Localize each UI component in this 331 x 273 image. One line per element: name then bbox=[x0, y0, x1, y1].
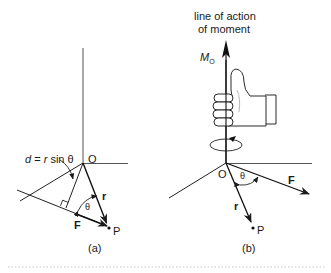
moment-subscript: O bbox=[209, 58, 214, 65]
point-label-a: P bbox=[113, 226, 120, 237]
point-p-b bbox=[251, 226, 254, 229]
axis-title-line2: of moment bbox=[198, 24, 250, 35]
moment-symbol: M bbox=[200, 51, 209, 63]
angle-label-b: θ bbox=[240, 172, 245, 181]
origin-label-b: O bbox=[218, 169, 227, 180]
moment-diagram bbox=[0, 0, 331, 273]
moment-label: MO bbox=[200, 52, 215, 65]
position-vector-label-b: r bbox=[234, 201, 238, 212]
point-label-b: P bbox=[257, 225, 264, 236]
force-label-a: F bbox=[74, 220, 81, 231]
position-vector-b bbox=[226, 163, 251, 222]
panel-b bbox=[169, 40, 312, 230]
sin-text: sin bbox=[47, 153, 67, 165]
distance-label: d = r sin θ bbox=[25, 154, 74, 165]
axis-title-line1: line of action bbox=[194, 11, 256, 22]
angle-label-a: θ bbox=[85, 203, 90, 212]
rotation-arrowhead bbox=[229, 136, 236, 142]
position-vector-label-a: r bbox=[102, 191, 106, 202]
perpendicular-distance-line bbox=[66, 163, 83, 208]
caption-a: (a) bbox=[88, 243, 101, 254]
force-vector-b bbox=[226, 163, 309, 194]
panel-a bbox=[17, 48, 128, 230]
caption-b: (b) bbox=[242, 243, 255, 254]
force-label-b: F bbox=[288, 175, 295, 186]
point-p-a bbox=[107, 226, 110, 229]
origin-label-a: O bbox=[88, 154, 97, 165]
equals-sign: = bbox=[31, 153, 44, 165]
right-hand-icon bbox=[213, 69, 276, 126]
theta-symbol: θ bbox=[68, 153, 74, 165]
